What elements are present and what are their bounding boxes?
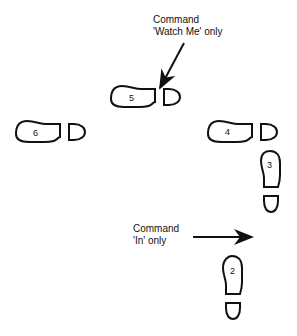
heel-5 (164, 89, 180, 105)
footprint-6: 6 (16, 121, 85, 142)
footprint-5: 5 (111, 86, 180, 107)
in-line2: 'In' only (133, 235, 179, 247)
footprint-4: 4 (208, 121, 277, 142)
footprint-label-5: 5 (129, 93, 134, 103)
footprint-2: 2 (223, 256, 242, 319)
footprint-label-2: 2 (230, 266, 235, 276)
heel-3 (264, 196, 278, 212)
watch-me-line1: Command (153, 14, 223, 26)
footprint-label-3: 3 (267, 160, 272, 170)
watch-me-annotation: Command 'Watch Me' only (153, 14, 223, 38)
footstep-diagram: 5 6 4 3 2 (0, 0, 297, 336)
watch-me-line2: 'Watch Me' only (153, 26, 223, 38)
in-line1: Command (133, 223, 179, 235)
in-annotation: Command 'In' only (133, 223, 179, 247)
heel-2 (226, 303, 240, 319)
heel-4 (261, 124, 277, 140)
footprint-3: 3 (261, 151, 280, 212)
footprint-label-4: 4 (225, 127, 230, 137)
heel-6 (69, 124, 85, 140)
watch-me-arrow (160, 43, 184, 88)
footprint-label-6: 6 (33, 128, 38, 138)
